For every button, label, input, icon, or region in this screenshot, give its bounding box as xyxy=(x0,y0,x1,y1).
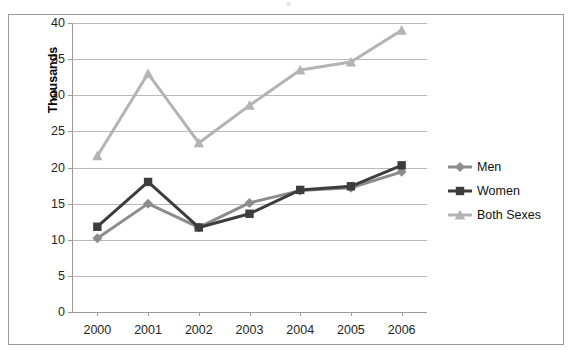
x-axis-tick-mark xyxy=(300,312,301,316)
x-axis-tick-mark xyxy=(199,312,200,316)
x-axis-tick-label: 2003 xyxy=(236,324,264,337)
series-women xyxy=(93,161,406,232)
series-men xyxy=(92,167,406,243)
x-axis-tick-mark xyxy=(97,312,98,316)
y-axis-tick-label: 15 xyxy=(51,198,65,211)
y-axis-tick-mark xyxy=(68,204,72,205)
x-axis-tick-label: 2001 xyxy=(134,324,162,337)
series-group xyxy=(72,23,427,312)
y-axis-tick-label: 40 xyxy=(51,17,65,30)
legend-item-men[interactable]: Men xyxy=(447,155,559,179)
y-axis-tick-label: 5 xyxy=(58,270,65,283)
data-point-marker xyxy=(455,162,465,172)
data-point-marker xyxy=(396,25,406,35)
y-axis-tick-mark xyxy=(68,168,72,169)
x-axis-tick-mark xyxy=(250,312,251,316)
y-axis-tick-label: 0 xyxy=(58,306,65,319)
data-point-marker xyxy=(195,223,203,231)
y-axis-tick-mark xyxy=(68,276,72,277)
data-point-marker xyxy=(143,68,153,78)
chart-legend: MenWomenBoth Sexes xyxy=(447,155,559,227)
legend-label: Men xyxy=(477,161,501,174)
series-line xyxy=(97,165,401,227)
y-axis-tick-mark xyxy=(68,240,72,241)
data-point-marker xyxy=(93,223,101,231)
y-axis-tick-label: 20 xyxy=(51,162,65,175)
data-point-marker xyxy=(296,186,304,194)
scan-artifact-speck xyxy=(286,2,291,6)
x-axis-tick-mark xyxy=(351,312,352,316)
legend-label: Both Sexes xyxy=(477,209,541,222)
chart-frame: Thousands 0510152025303540 2000200120022… xyxy=(8,14,564,345)
legend-swatch-triangle-icon xyxy=(447,208,473,222)
y-axis-tick-label: 25 xyxy=(51,125,65,138)
y-axis-tick-labels: 0510152025303540 xyxy=(9,23,65,312)
data-point-marker xyxy=(144,178,152,186)
data-point-marker xyxy=(397,161,405,169)
legend-item-women[interactable]: Women xyxy=(447,179,559,203)
legend-item-both-sexes[interactable]: Both Sexes xyxy=(447,203,559,227)
y-axis-tick-mark xyxy=(68,59,72,60)
series-line xyxy=(97,30,401,156)
x-axis-tick-labels: 2000200120022003200420052006 xyxy=(72,324,427,344)
y-axis-tick-label: 35 xyxy=(51,53,65,66)
data-point-marker xyxy=(456,187,464,195)
x-axis-tick-label: 2004 xyxy=(286,324,314,337)
x-axis-tick-label: 2000 xyxy=(83,324,111,337)
y-axis-tick-mark xyxy=(68,23,72,24)
x-axis-tick-mark xyxy=(148,312,149,316)
y-axis-tick-mark xyxy=(68,312,72,313)
y-axis-tick-mark xyxy=(68,131,72,132)
x-axis-tick-label: 2006 xyxy=(388,324,416,337)
data-point-marker xyxy=(245,210,253,218)
data-point-marker xyxy=(347,182,355,190)
legend-swatch-square-icon xyxy=(447,184,473,198)
y-axis-tick-label: 10 xyxy=(51,234,65,247)
x-axis-tick-label: 2005 xyxy=(337,324,365,337)
x-axis-tick-label: 2002 xyxy=(185,324,213,337)
legend-swatch-diamond-icon xyxy=(447,160,473,174)
plot-area xyxy=(72,23,427,320)
y-axis-tick-label: 30 xyxy=(51,89,65,102)
data-point-marker xyxy=(245,198,255,208)
series-both-sexes xyxy=(92,25,407,160)
legend-label: Women xyxy=(477,185,520,198)
y-axis-tick-mark xyxy=(68,95,72,96)
x-axis-tick-mark xyxy=(402,312,403,316)
